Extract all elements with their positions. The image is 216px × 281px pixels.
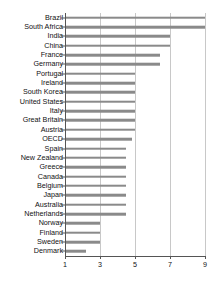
category-label: Norway	[39, 219, 63, 227]
x-tick-mark	[135, 256, 136, 259]
y-tick-mark	[61, 129, 65, 130]
y-tick-mark	[61, 111, 65, 112]
bar	[66, 110, 135, 113]
category-label: Ireland	[41, 79, 63, 87]
chart-row: Netherlands	[0, 209, 216, 218]
x-tick-mark	[65, 256, 66, 259]
y-tick-mark	[61, 27, 65, 28]
bar	[66, 175, 126, 178]
y-tick-mark	[61, 232, 65, 233]
bar	[66, 203, 126, 206]
category-label: South Africa	[24, 23, 63, 31]
chart-row: Germany	[0, 60, 216, 69]
chart-row: Ireland	[0, 78, 216, 87]
bar	[66, 35, 170, 38]
category-label: Portugal	[36, 70, 63, 78]
y-tick-mark	[61, 204, 65, 205]
y-tick-mark	[61, 101, 65, 102]
chart-row: Norway	[0, 219, 216, 228]
y-tick-mark	[61, 55, 65, 56]
chart-row: India	[0, 32, 216, 41]
bar	[66, 185, 126, 188]
bar	[66, 147, 126, 150]
x-tick-mark	[170, 256, 171, 259]
y-tick-mark	[61, 92, 65, 93]
x-tick-label: 7	[168, 261, 172, 269]
bar	[66, 250, 86, 253]
x-tick-label: 1	[63, 261, 67, 269]
category-label: South Korea	[23, 88, 63, 96]
chart-row: Greece	[0, 163, 216, 172]
category-label: Belgium	[37, 182, 63, 190]
x-tick-mark	[205, 256, 206, 259]
category-label: Australia	[35, 201, 63, 209]
bar	[66, 72, 135, 75]
x-tick-label: 9	[203, 261, 207, 269]
chart-row: Portugal	[0, 69, 216, 78]
bar	[66, 129, 135, 132]
bar	[66, 82, 135, 85]
bar	[66, 157, 126, 160]
category-label: United States	[20, 98, 63, 106]
chart-row: Finland	[0, 228, 216, 237]
category-label: Sweden	[37, 238, 63, 246]
category-label: Denmark	[34, 247, 63, 255]
bar	[66, 222, 100, 225]
category-label: France	[41, 51, 63, 59]
bar	[66, 231, 100, 234]
chart-row: Brazil	[0, 13, 216, 22]
bar	[66, 194, 126, 197]
chart-row: South Korea	[0, 88, 216, 97]
chart-row: Sweden	[0, 237, 216, 246]
y-tick-mark	[61, 157, 65, 158]
y-tick-mark	[61, 241, 65, 242]
y-tick-mark	[61, 64, 65, 65]
chart-row: Australia	[0, 200, 216, 209]
y-tick-mark	[61, 213, 65, 214]
bar	[66, 91, 135, 94]
category-label: Greece	[39, 163, 63, 171]
category-label: Canada	[38, 173, 63, 181]
category-label: Finland	[39, 229, 63, 237]
category-label: New Zealand	[21, 154, 63, 162]
y-tick-mark	[61, 176, 65, 177]
category-label: Germany	[33, 60, 63, 68]
chart-row: Japan	[0, 191, 216, 200]
y-tick-mark	[61, 167, 65, 168]
y-tick-mark	[61, 17, 65, 18]
chart-row: New Zealand	[0, 153, 216, 162]
bar	[66, 119, 135, 122]
bar	[66, 100, 135, 103]
category-label: OECD	[42, 135, 63, 143]
category-label: Great Britain	[23, 116, 63, 124]
bar	[66, 44, 170, 47]
chart-row: Austria	[0, 125, 216, 134]
bar	[66, 16, 205, 19]
chart-row: France	[0, 50, 216, 59]
y-tick-mark	[61, 45, 65, 46]
bar	[66, 138, 132, 141]
plot-area: BrazilSouth AfricaIndiaChinaFranceGerman…	[0, 0, 216, 281]
bar	[66, 166, 126, 169]
chart-row: OECD	[0, 135, 216, 144]
y-tick-mark	[61, 120, 65, 121]
y-tick-mark	[61, 73, 65, 74]
category-label: Austria	[41, 126, 63, 134]
chart-row: Belgium	[0, 181, 216, 190]
bar-chart: BrazilSouth AfricaIndiaChinaFranceGerman…	[0, 0, 216, 281]
y-tick-mark	[61, 195, 65, 196]
y-tick-mark	[61, 223, 65, 224]
y-tick-mark	[61, 185, 65, 186]
chart-row: Spain	[0, 144, 216, 153]
bar	[66, 241, 100, 244]
y-tick-mark	[61, 251, 65, 252]
chart-row: Denmark	[0, 247, 216, 256]
chart-row: Italy	[0, 106, 216, 115]
y-tick-mark	[61, 83, 65, 84]
bar	[66, 54, 160, 57]
bar	[66, 213, 126, 216]
chart-row: Great Britain	[0, 116, 216, 125]
x-tick-label: 5	[133, 261, 137, 269]
chart-row: China	[0, 41, 216, 50]
y-tick-mark	[61, 139, 65, 140]
